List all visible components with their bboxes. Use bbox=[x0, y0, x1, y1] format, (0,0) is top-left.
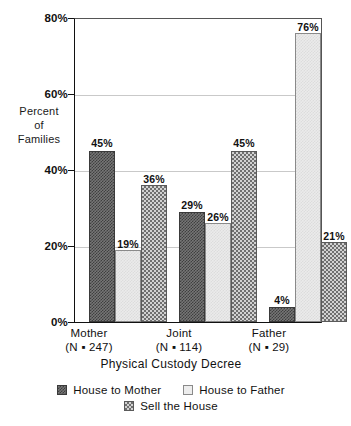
bar-mother-house-to-father[interactable] bbox=[115, 250, 141, 322]
y-axis-label-line-3: Families bbox=[6, 132, 72, 146]
category-label-joint: Joint (N ▪ 114) bbox=[131, 326, 227, 354]
bar-label-father-house-to-father: 76% bbox=[290, 21, 326, 33]
bar-label-joint-house-to-mother: 29% bbox=[174, 199, 210, 211]
bar-father-sell-the-house[interactable] bbox=[321, 242, 347, 322]
y-axis-label-line-2: of bbox=[6, 118, 72, 132]
y-tick-label-20: 20% bbox=[24, 240, 68, 252]
bar-label-joint-house-to-father: 26% bbox=[200, 211, 236, 223]
bar-father-house-to-father[interactable] bbox=[295, 33, 321, 322]
legend-label-house-to-mother: House to Mother bbox=[73, 384, 161, 396]
bar-joint-sell-the-house[interactable] bbox=[231, 151, 257, 322]
x-axis-title: Physical Custody Decree bbox=[0, 357, 342, 371]
bar-joint-house-to-mother[interactable] bbox=[179, 212, 205, 322]
y-tick-label-80: 80% bbox=[24, 12, 68, 24]
legend-label-house-to-father: House to Father bbox=[199, 384, 284, 396]
legend-swatch-house-to-father-icon bbox=[183, 385, 193, 395]
legend-swatch-house-to-mother-icon bbox=[57, 385, 67, 395]
legend-label-sell-the-house: Sell the House bbox=[140, 400, 218, 412]
category-name-mother: Mother bbox=[41, 326, 137, 340]
legend-row-2: Sell the House bbox=[0, 400, 342, 412]
plot-area: 45% 19% 36% 29% 26% 45% 4% 76% 21% bbox=[74, 18, 322, 323]
bar-label-mother-house-to-mother: 45% bbox=[84, 137, 120, 149]
bar-label-father-house-to-mother: 4% bbox=[264, 294, 300, 306]
category-label-father: Father (N ▪ 29) bbox=[221, 326, 317, 354]
bar-mother-sell-the-house[interactable] bbox=[141, 185, 167, 322]
legend-row-1: House to Mother House to Father bbox=[0, 384, 342, 396]
bar-father-house-to-mother[interactable] bbox=[269, 307, 295, 322]
y-tick-label-40: 40% bbox=[24, 164, 68, 176]
category-n-father: (N ▪ 29) bbox=[221, 340, 317, 354]
legend-item-house-to-mother[interactable]: House to Mother bbox=[57, 384, 161, 396]
bar-label-father-sell-the-house: 21% bbox=[316, 230, 351, 242]
bar-mother-house-to-mother[interactable] bbox=[89, 151, 115, 322]
category-name-father: Father bbox=[221, 326, 317, 340]
chart-legend: House to Mother House to Father Sell the… bbox=[0, 384, 342, 416]
category-label-mother: Mother (N ▪ 247) bbox=[41, 326, 137, 354]
legend-item-house-to-father[interactable]: House to Father bbox=[183, 384, 284, 396]
bar-label-joint-sell-the-house: 45% bbox=[226, 137, 262, 149]
legend-item-sell-the-house[interactable]: Sell the House bbox=[124, 400, 218, 412]
legend-swatch-sell-the-house-icon bbox=[124, 401, 134, 411]
y-axis-label: Percent of Families bbox=[6, 104, 72, 146]
y-axis-label-line-1: Percent bbox=[6, 104, 72, 118]
category-n-mother: (N ▪ 247) bbox=[41, 340, 137, 354]
category-name-joint: Joint bbox=[131, 326, 227, 340]
category-n-joint: (N ▪ 114) bbox=[131, 340, 227, 354]
bar-label-mother-house-to-father: 19% bbox=[110, 238, 146, 250]
gridline-60 bbox=[75, 95, 321, 96]
bar-label-mother-sell-the-house: 36% bbox=[136, 173, 172, 185]
bar-joint-house-to-father[interactable] bbox=[205, 223, 231, 322]
y-tick-label-60: 60% bbox=[24, 88, 68, 100]
